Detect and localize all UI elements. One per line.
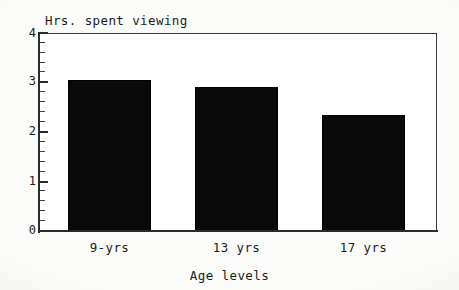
bar-17-yrs bbox=[322, 115, 405, 231]
y-tick-minor bbox=[40, 91, 45, 92]
y-tick-major-1 bbox=[40, 181, 48, 183]
bar-chart-screenshot: 4 3 2 1 0 Hrs. spent viewing 9-yrs 13 yr… bbox=[0, 0, 459, 290]
bar-13-yrs bbox=[195, 87, 278, 231]
y-tick-minor bbox=[40, 220, 45, 221]
y-tick-minor bbox=[40, 141, 45, 142]
y-tick-label-2: 2 bbox=[10, 125, 36, 137]
x-tick-label-13-yrs: 13 yrs bbox=[195, 240, 278, 255]
y-tick-minor bbox=[40, 161, 45, 162]
y-tick-minor bbox=[40, 121, 45, 122]
y-tick-minor bbox=[40, 71, 45, 72]
y-tick-major-4 bbox=[40, 32, 48, 34]
y-axis-title: Hrs. spent viewing bbox=[45, 13, 188, 28]
y-tick-minor bbox=[40, 111, 45, 112]
y-tick-major-2 bbox=[40, 131, 48, 133]
y-tick-major-3 bbox=[40, 81, 48, 83]
bar-9-yrs bbox=[68, 80, 151, 231]
y-tick-minor bbox=[40, 101, 45, 102]
y-tick-label-0: 0 bbox=[10, 224, 36, 236]
y-tick-label-1: 1 bbox=[10, 175, 36, 187]
x-tick-label-17-yrs: 17 yrs bbox=[322, 240, 405, 255]
y-tick-major-0 bbox=[40, 230, 48, 232]
y-tick-minor bbox=[40, 62, 45, 63]
y-tick-minor bbox=[40, 171, 45, 172]
x-axis-line bbox=[38, 230, 438, 232]
y-tick-minor bbox=[40, 190, 45, 191]
y-tick-minor bbox=[40, 210, 45, 211]
y-tick-minor bbox=[40, 52, 45, 53]
y-tick-minor bbox=[40, 151, 45, 152]
y-tick-label-4: 4 bbox=[10, 27, 36, 39]
y-tick-minor bbox=[40, 200, 45, 201]
x-tick-label-9-yrs: 9-yrs bbox=[68, 240, 151, 255]
x-axis-title: Age levels bbox=[0, 268, 459, 283]
y-tick-label-3: 3 bbox=[10, 75, 36, 87]
y-tick-minor bbox=[40, 42, 45, 43]
